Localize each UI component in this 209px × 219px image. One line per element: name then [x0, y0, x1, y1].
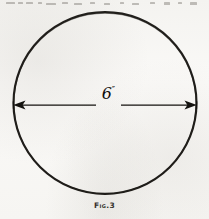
figure-caption: Fig.3 — [0, 201, 209, 210]
inch-mark: ″ — [112, 85, 114, 95]
figure-page: 6″ Fig.3 — [0, 0, 209, 219]
diameter-measure-label: 6″ — [95, 86, 121, 102]
diameter-value: 6 — [102, 84, 112, 103]
figure-drawing — [0, 0, 209, 219]
